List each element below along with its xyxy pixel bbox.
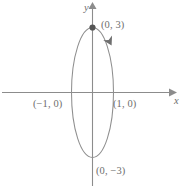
point-label-right: (1, 0) xyxy=(113,99,136,110)
y-axis-label: y xyxy=(84,3,89,14)
coordinate-plane-svg xyxy=(0,0,187,188)
ellipse-graph-figure: (0, 3) (−1, 0) (1, 0) (0, −3) x y xyxy=(0,0,187,188)
point-label-top: (0, 3) xyxy=(101,20,124,31)
start-point-marker xyxy=(89,24,95,30)
x-axis-label: x xyxy=(174,96,179,107)
point-label-bottom: (0, −3) xyxy=(96,166,125,177)
y-axis-arrowhead xyxy=(89,2,97,9)
point-label-left: (−1, 0) xyxy=(33,99,62,110)
